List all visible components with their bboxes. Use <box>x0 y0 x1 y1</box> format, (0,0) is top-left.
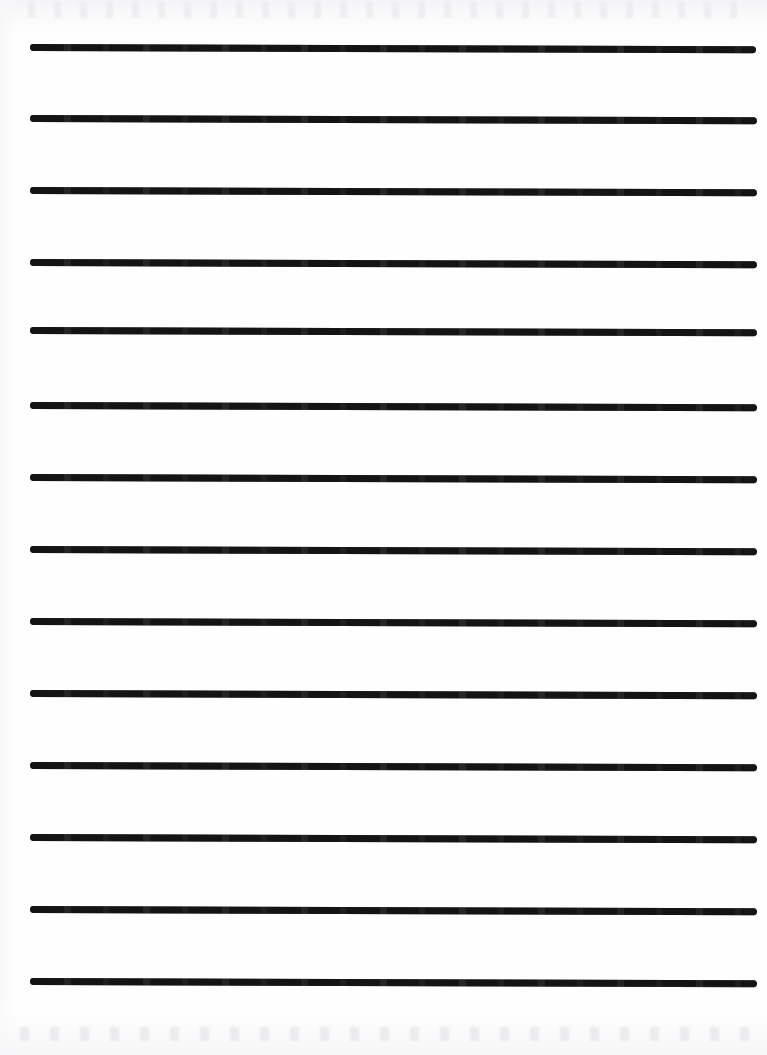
ruled-line <box>30 618 757 627</box>
ruled-line <box>30 187 757 196</box>
ruled-line <box>30 834 757 843</box>
ruled-line <box>30 906 757 915</box>
ruled-line <box>30 44 756 53</box>
paper-sheet <box>0 0 767 1055</box>
ruled-line <box>30 762 757 771</box>
scan-artifact-top-band <box>0 0 767 46</box>
ruled-line <box>30 546 757 555</box>
ruled-line <box>30 690 757 699</box>
ruled-line <box>30 259 757 268</box>
scan-artifact-bottom-band <box>0 985 767 1055</box>
ruled-line <box>30 474 757 483</box>
ruled-line <box>30 402 757 411</box>
ruled-line <box>30 327 757 336</box>
ruled-line <box>30 115 757 124</box>
scan-artifact-left-edge <box>0 0 16 1055</box>
ruled-line <box>30 978 757 987</box>
